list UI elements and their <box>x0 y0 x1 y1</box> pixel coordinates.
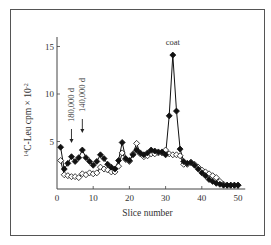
peak-label: coat <box>166 37 181 47</box>
data-series <box>58 52 241 188</box>
x-tick-label: 30 <box>161 193 171 203</box>
filled-diamond-marker <box>170 52 176 58</box>
y-axis-title: 14C-Leu cpm × 10-2 <box>23 83 33 157</box>
x-tick-label: 10 <box>89 193 99 203</box>
filled-diamond-marker <box>173 108 179 114</box>
filled-diamond-marker <box>177 146 183 152</box>
filled-diamond-marker <box>79 147 85 153</box>
y-tick-label: 10 <box>45 89 55 99</box>
open-diamond-marker <box>134 140 140 146</box>
arrow-head-icon <box>80 129 84 133</box>
molecular-weight-label: 180,000 d <box>66 87 76 122</box>
filled-diamond-marker <box>65 160 71 166</box>
filled-diamond-marker <box>119 139 125 145</box>
x-tick-label: 40 <box>197 193 207 203</box>
x-axis-title: Slice number <box>122 208 173 218</box>
filled-diamond-marker <box>166 113 172 119</box>
axes: 0102030405051015Slice number14C-Leu cpm … <box>23 37 245 218</box>
y-tick-label: 15 <box>45 42 55 52</box>
filled-diamond-marker <box>58 144 64 150</box>
x-tick-label: 50 <box>234 193 244 203</box>
x-tick-label: 0 <box>55 193 60 203</box>
filled-diamond-marker <box>235 182 241 188</box>
chart-plot: 0102030405051015Slice number14C-Leu cpm … <box>0 0 271 245</box>
x-tick-label: 20 <box>125 193 135 203</box>
arrow-head-icon <box>69 139 73 143</box>
series-line <box>61 55 238 185</box>
y-tick-label: 5 <box>50 137 55 147</box>
molecular-weight-label: 140,000 d <box>77 77 87 112</box>
annotations: 180,000 d140,000 dcoat <box>66 37 180 143</box>
